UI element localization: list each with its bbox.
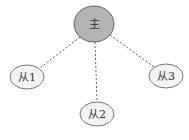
edge-master-slave2 (95, 42, 97, 102)
master-slave-diagram: 主 从1 从2 从3 (0, 0, 189, 140)
edge-master-slave3 (110, 35, 154, 67)
slave-node-2: 从2 (80, 102, 114, 126)
slave-label-1: 从1 (18, 71, 36, 84)
edge-master-slave1 (40, 37, 80, 68)
slave-node-1: 从1 (10, 65, 44, 89)
master-node: 主 (74, 6, 114, 42)
slave-label-2: 从2 (88, 108, 106, 121)
slave-node-3: 从3 (149, 64, 183, 88)
slave-label-3: 从3 (157, 70, 175, 83)
master-label: 主 (89, 18, 100, 31)
